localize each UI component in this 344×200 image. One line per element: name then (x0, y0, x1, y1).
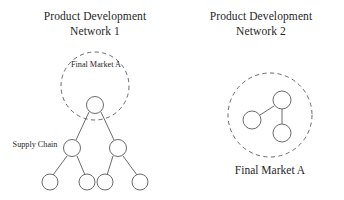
panel-title-network-1-line-1: Product Development (0, 9, 190, 24)
side-label-line-2: Chain (38, 140, 58, 149)
hub-nodes (243, 91, 291, 142)
edge-b-b2 (123, 156, 137, 175)
edge-a-a1 (53, 156, 67, 175)
node-supply-tier2-1 (42, 174, 58, 190)
node-supply-tier1-left (64, 140, 81, 157)
caption-final-market-a-right: Final Market A (205, 163, 335, 177)
edge-root-b (101, 112, 114, 140)
cluster-label-final-market-a-left: Final Market A (60, 60, 132, 71)
panel-title-network-1-line-2: Network 1 (0, 24, 190, 39)
panel-network-2 (228, 73, 312, 157)
node-supply-tier2-3 (97, 174, 113, 190)
node-supply-tier2-2 (79, 174, 95, 190)
dashed-cluster-circle-right (228, 73, 312, 157)
cluster-label-line-1: Final (71, 60, 88, 69)
edge-hub-left (260, 106, 274, 115)
side-label-line-1: Supply (13, 140, 36, 149)
edge-a-a2 (77, 156, 85, 175)
node-final-market-root (87, 97, 104, 114)
panel-title-network-2: Product Development Network 2 (178, 9, 344, 38)
edge-root-a (76, 112, 89, 140)
cluster-label-line-2: Market A (90, 60, 121, 69)
side-label-supply-chain: Supply Chain (8, 140, 62, 151)
panel-title-network-2-line-2: Network 2 (178, 24, 344, 39)
edge-b-b1 (107, 156, 113, 175)
node-supply-tier2-4 (132, 174, 148, 190)
panel-title-network-1: Product Development Network 1 (0, 9, 190, 38)
panel-network-1 (42, 52, 148, 190)
panel-title-network-2-line-1: Product Development (178, 9, 344, 24)
node-supply-tier1-right (110, 140, 127, 157)
node-hub-bottom (273, 124, 291, 142)
node-hub (273, 91, 291, 109)
node-hub-left (243, 111, 261, 129)
